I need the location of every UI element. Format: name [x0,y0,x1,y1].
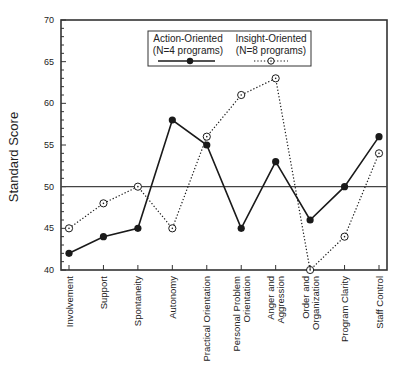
data-point-center-dot [206,136,208,138]
y-tick-label: 50 [44,182,54,192]
category-label-line: Practical Orientation [201,276,212,362]
data-point-filled-circle [341,183,348,190]
category-label-line: Spontaneity [132,276,143,326]
data-point-center-dot [344,236,346,238]
series-insight-oriented [65,75,382,274]
data-point-center-dot [68,228,70,230]
y-tick-label: 55 [44,140,54,150]
category-label-line: Autonomy [167,276,178,319]
data-point-center-dot [103,203,105,205]
data-point-center-dot [240,94,242,96]
data-point-filled-circle [238,225,245,232]
category-label-line: Organization [310,276,321,330]
x-category-label: Autonomy [167,276,178,319]
data-point-filled-circle [272,158,279,165]
legend-series-count: (N=4 programs) [153,45,223,56]
series-line [69,78,379,270]
x-category-label: Staff Control [374,276,385,329]
x-category-label: Order andOrganization [300,276,321,330]
category-label-line: Support [98,276,109,310]
legend-series-name: Action-Oriented [153,33,222,44]
x-category-label: Support [98,276,109,310]
data-point-filled-circle [65,250,72,257]
y-tick-label: 70 [44,15,54,25]
y-tick-label: 45 [44,223,54,233]
legend-series-name: Insight-Oriented [235,33,306,44]
data-point-filled-circle [203,141,210,148]
x-category-label: Involvement [64,276,75,328]
category-label-line: Involvement [64,276,75,328]
data-point-filled-circle [307,216,314,223]
y-tick-label: 60 [44,98,54,108]
data-point-center-dot [275,78,277,80]
data-point-filled-circle [100,233,107,240]
line-chart: 40455055606570 InvolvementSupportSpontan… [0,0,405,387]
legend-series-count: (N=8 programs) [236,45,306,56]
data-point-center-dot [378,153,380,155]
x-category-label: Anger andAggression [265,276,286,324]
y-tick-label: 65 [44,57,54,67]
x-category-label: Program Clarity [339,276,350,342]
x-axis: InvolvementSupportSpontaneityAutonomyPra… [64,265,385,362]
data-point-filled-circle [375,133,382,140]
category-label-line: Orientation [241,276,252,322]
legend-filled-circle-marker [187,58,193,64]
category-label-line: Staff Control [374,276,385,329]
series-layer [65,75,382,274]
data-point-filled-circle [134,225,141,232]
y-axis-title: Standard Score [6,112,21,202]
y-tick-label: 40 [44,265,54,275]
y-axis: 40455055606570 [44,15,66,275]
data-point-center-dot [137,186,139,188]
x-category-label: Personal ProblemOrientation [231,276,252,352]
x-category-label: Practical Orientation [201,276,212,362]
x-category-label: Spontaneity [132,276,143,326]
category-label-line: Aggression [275,276,286,324]
category-label-line: Program Clarity [339,276,350,342]
data-point-center-dot [172,228,174,230]
legend-center-dot [270,60,272,62]
legend: Action-Oriented(N=4 programs)Insight-Ori… [148,31,311,66]
data-point-filled-circle [169,116,176,123]
